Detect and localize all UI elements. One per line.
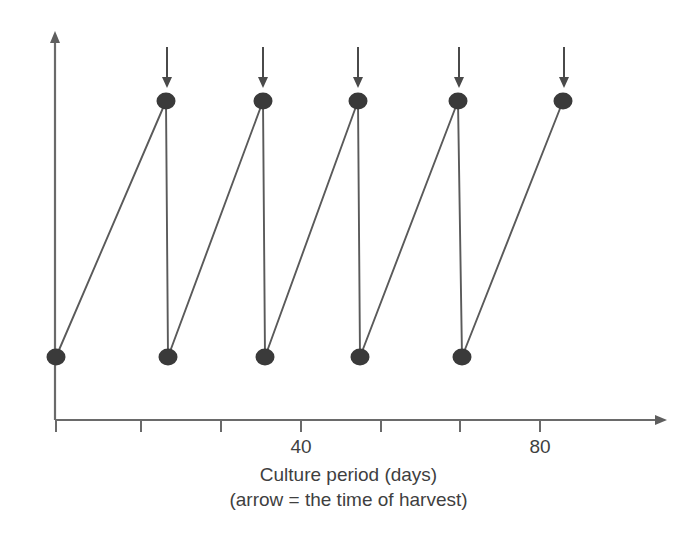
data-point-marker <box>449 93 468 110</box>
data-point-marker <box>157 93 176 110</box>
data-point-marker <box>554 93 573 110</box>
x-axis-ticks <box>56 420 540 432</box>
growth-curve <box>56 101 563 357</box>
x-axis-title: Culture period (days) <box>0 462 697 487</box>
data-point-marker <box>351 349 370 366</box>
growth-curve-line <box>56 101 563 357</box>
data-point-marker <box>254 93 273 110</box>
data-point-marker <box>159 349 178 366</box>
data-point-marker <box>47 349 66 366</box>
data-point-marker <box>349 93 368 110</box>
chart-figure: 40 80 Cell growth Culture period (days) … <box>0 0 697 541</box>
data-point-marker <box>256 349 275 366</box>
data-point-marker <box>453 349 472 366</box>
x-axis-title-note: (arrow = the time of harvest) <box>0 487 697 512</box>
x-tick-label-80: 80 <box>529 436 550 458</box>
x-axis <box>55 420 656 432</box>
chart-plot-area <box>0 0 697 541</box>
harvest-arrows <box>167 47 564 78</box>
x-axis-title-block: Culture period (days) (arrow = the time … <box>0 462 697 512</box>
data-point-markers <box>47 93 573 366</box>
x-tick-label-40: 40 <box>290 436 311 458</box>
